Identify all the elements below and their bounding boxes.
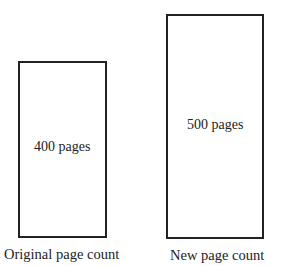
new-page-label: 500 pages	[187, 117, 243, 133]
original-page-caption: Original page count	[4, 246, 119, 263]
original-page-label: 400 pages	[34, 139, 90, 155]
new-page-caption: New page count	[170, 247, 264, 264]
